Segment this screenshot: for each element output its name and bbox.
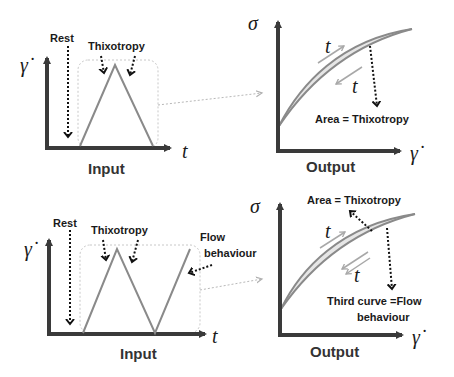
y-axis-symbol: γ̇ bbox=[24, 238, 38, 261]
thixotropy-arrow-down bbox=[130, 56, 135, 75]
area-arrow bbox=[350, 211, 372, 231]
up-curve-time-label: t bbox=[325, 35, 331, 57]
bottom-output-panel: t t Area = Thixotropy Third curve =Flow … bbox=[250, 194, 426, 360]
x-axis-symbol: γ̇ bbox=[410, 142, 424, 165]
thixotropy-label: Thixotropy bbox=[88, 40, 146, 52]
connector-arrow bbox=[200, 279, 262, 290]
down-curve-time-label: t bbox=[352, 75, 358, 97]
thixotropy-arrow-down bbox=[132, 240, 138, 262]
third-curve-label-line1: Third curve =Flow bbox=[327, 295, 422, 307]
x-axis-symbol: t bbox=[212, 325, 218, 347]
panel-title: Output bbox=[310, 343, 359, 360]
thixotropy-arrow-up bbox=[103, 240, 106, 260]
y-axis-symbol: γ̇ bbox=[20, 54, 34, 77]
rest-label: Rest bbox=[53, 217, 77, 229]
third-curve-label-line2: behaviour bbox=[357, 311, 410, 323]
bottom-input-panel: Rest Thixotropy Flow behaviour γ̇ t Inpu… bbox=[24, 217, 257, 362]
down-curve-time-label: t bbox=[354, 264, 360, 286]
flow-behaviour-label-line2: behaviour bbox=[204, 247, 257, 259]
thixotropy-arrow-up bbox=[101, 56, 104, 73]
x-axis-symbol: γ̇ bbox=[412, 326, 426, 349]
y-axis-symbol: σ bbox=[248, 12, 259, 34]
flow-behaviour-label-line1: Flow bbox=[200, 231, 225, 243]
y-axis-symbol: σ bbox=[250, 195, 261, 217]
thixotropy-label: Thixotropy bbox=[91, 224, 149, 236]
top-output-panel: t t Area = Thixotropy σ γ̇ Output bbox=[248, 12, 424, 175]
third-curve-arrow bbox=[387, 228, 392, 289]
area-thixotropy-label: Area = Thixotropy bbox=[307, 194, 402, 206]
panel-title: Output bbox=[306, 158, 355, 175]
down-direction-arrow bbox=[336, 67, 362, 84]
shear-rate-profile bbox=[80, 65, 153, 146]
panel-title: Input bbox=[88, 160, 125, 177]
rest-label: Rest bbox=[50, 32, 74, 44]
connector-arrow bbox=[158, 93, 262, 105]
up-curve-time-label: t bbox=[325, 220, 331, 242]
thixotropy-diagram: Rest Thixotropy γ̇ t Input t t Area = Th… bbox=[0, 0, 454, 377]
x-axis-symbol: t bbox=[182, 140, 188, 162]
thixotropy-dashed-box bbox=[80, 245, 200, 333]
area-thixotropy-label: Area = Thixotropy bbox=[315, 113, 410, 125]
panel-title: Input bbox=[120, 345, 157, 362]
shear-rate-profile bbox=[83, 249, 190, 333]
area-arrow bbox=[370, 46, 377, 106]
